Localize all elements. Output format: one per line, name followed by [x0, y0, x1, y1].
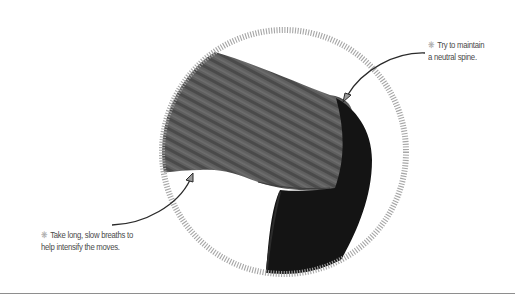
- asterisk-icon: ❋: [428, 40, 435, 50]
- shirt: [150, 52, 352, 191]
- asterisk-icon: ❋: [41, 230, 48, 240]
- callout-line: Try to maintain: [437, 40, 484, 50]
- arrowhead-icon: [186, 173, 193, 182]
- divider-rule: [0, 293, 515, 294]
- callout-neutral-spine: ❋Try to maintain a neutral spine.: [428, 39, 484, 63]
- callout-line: Take long, slow breaths to: [50, 230, 133, 240]
- illustration-stage: ❋Try to maintain a neutral spine. ❋Take …: [0, 0, 515, 301]
- arrow-to-spine: [343, 53, 425, 102]
- arrowhead-icon: [343, 93, 351, 102]
- callout-line: a neutral spine.: [428, 51, 484, 63]
- callout-line: help intensify the moves.: [41, 241, 133, 253]
- callout-slow-breaths: ❋Take long, slow breaths to help intensi…: [41, 229, 133, 253]
- arrow-to-breath: [112, 173, 193, 225]
